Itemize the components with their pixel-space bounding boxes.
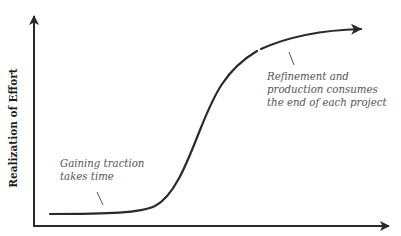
- s-curve-line-end: [261, 29, 361, 49]
- s-curve-line: [50, 51, 257, 214]
- annotation-refinement: Refinement and production consumes the e…: [267, 70, 387, 109]
- y-axis-label: Realization of Effort: [7, 68, 19, 187]
- annotation-line: Gaining traction: [60, 157, 144, 170]
- leader-line-end: [289, 52, 294, 65]
- s-curve-diagram: [0, 0, 401, 236]
- annotation-line: Refinement and: [267, 70, 387, 83]
- annotation-gaining-traction: Gaining traction takes time: [60, 157, 144, 183]
- annotation-line: the end of each project: [267, 96, 387, 109]
- leader-line-start: [97, 192, 103, 205]
- annotation-line: takes time: [60, 170, 144, 183]
- annotation-line: production consumes: [267, 83, 387, 96]
